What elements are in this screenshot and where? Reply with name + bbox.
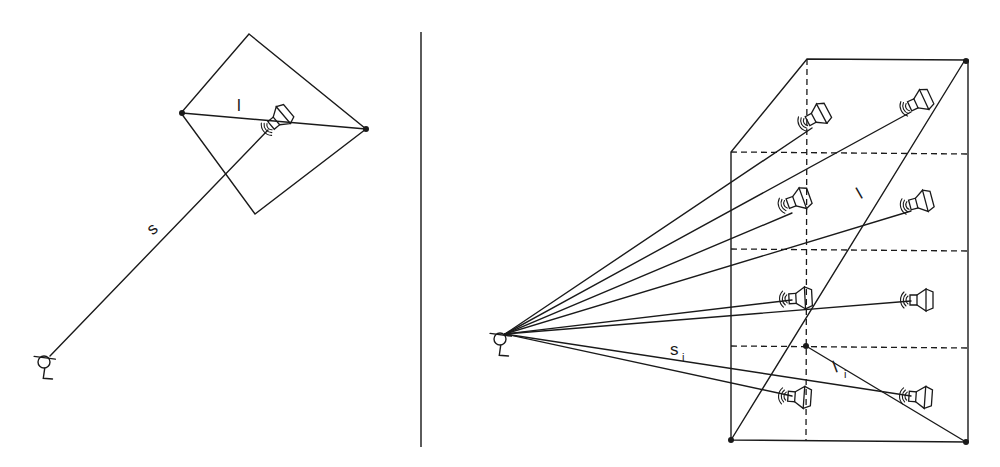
left-endpoint-dot (179, 110, 185, 116)
speaker-icon (779, 287, 813, 311)
right-label-s: s (670, 340, 679, 359)
speaker-icon (896, 87, 935, 121)
speaker-icon (257, 102, 296, 140)
left-diagram: s l (28, 34, 369, 383)
box-dashed-row-1 (731, 152, 968, 154)
left-endpoint-dot (363, 126, 369, 132)
speaker-icon (794, 101, 833, 136)
left-panel-square (181, 34, 366, 214)
left-label-l: l (237, 96, 241, 115)
corner-dot (963, 58, 969, 64)
speaker-icon (775, 185, 813, 217)
right-label-l-i: l (830, 358, 840, 377)
rays-s-i (505, 112, 911, 396)
right-label-l: l (853, 184, 866, 202)
center-dot (803, 343, 809, 349)
corner-dot (963, 439, 969, 445)
diagram-canvas: s l (0, 0, 1000, 467)
speaker-icon (901, 289, 933, 311)
box-dashed-row-3 (731, 346, 968, 348)
right-label-s-subscript: i (682, 351, 684, 363)
left-label-s: s (143, 219, 162, 239)
box-dashed-row-2 (731, 249, 968, 251)
left-line-s (50, 130, 268, 356)
corner-dot (728, 437, 734, 443)
right-diagram: s i l l i (484, 58, 969, 445)
microphone-icon (28, 347, 64, 383)
speaker-icon (778, 385, 812, 409)
right-label-l-i-subscript: i (844, 368, 846, 380)
right-line-l (731, 60, 965, 440)
